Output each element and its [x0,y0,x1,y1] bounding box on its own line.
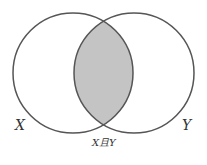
set-x-label: X [14,117,26,133]
venn-diagram: X Y X且Y [0,0,207,165]
intersection-label: X且Y [91,137,117,148]
set-y-label: Y [182,117,193,133]
